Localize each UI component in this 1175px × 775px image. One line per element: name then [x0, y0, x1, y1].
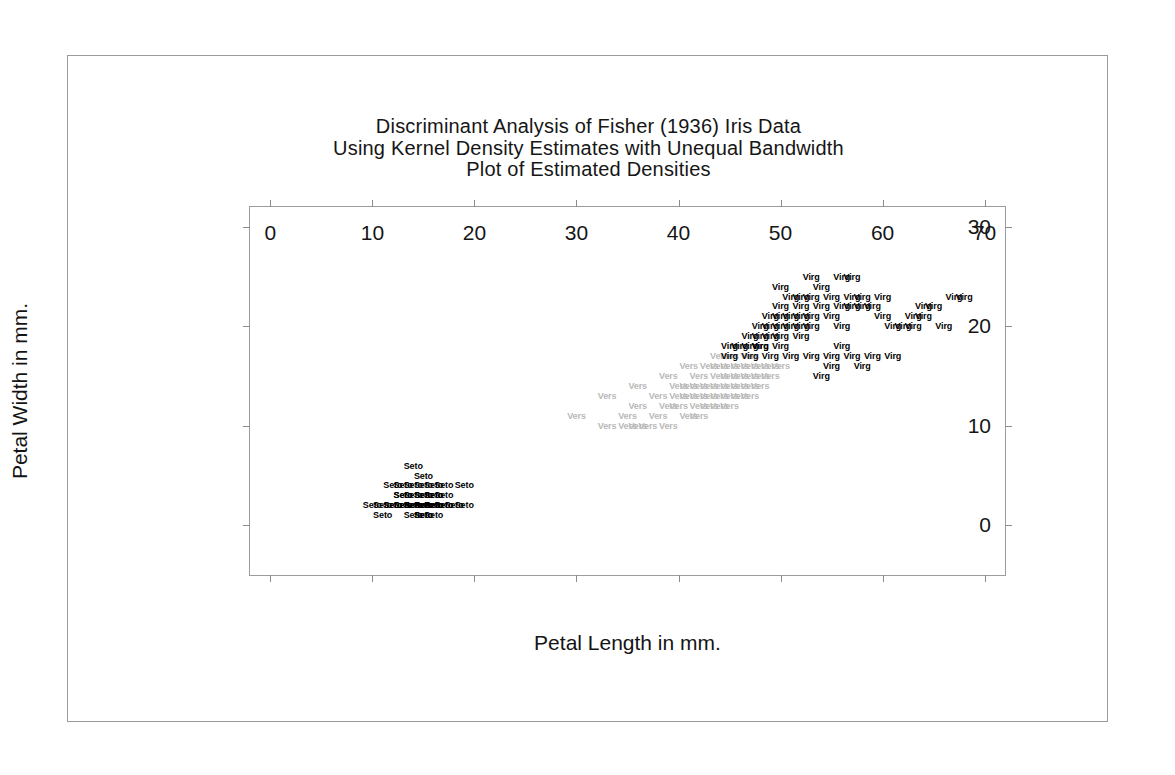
data-point-vers: Vers — [649, 411, 668, 420]
data-point-virg: Virg — [813, 302, 830, 311]
x-tick-mark-top — [270, 200, 271, 207]
x-tick-mark-top — [781, 200, 782, 207]
x-tick-mark — [985, 575, 986, 582]
data-point-virg: Virg — [854, 292, 871, 301]
data-point-virg: Virg — [823, 352, 840, 361]
figure-page: Discriminant Analysis of Fisher (1936) I… — [0, 0, 1175, 775]
data-point-seto: Seto — [455, 481, 474, 490]
x-tick-mark-top — [372, 200, 373, 207]
data-point-vers: Vers — [618, 411, 637, 420]
data-point-virg: Virg — [823, 362, 840, 371]
data-point-virg: Virg — [772, 282, 789, 291]
data-point-virg: Virg — [782, 352, 799, 361]
data-point-vers: Vers — [761, 372, 780, 381]
data-point-vers: Vers — [679, 362, 698, 371]
data-point-virg: Virg — [803, 352, 820, 361]
x-tick-mark-top — [474, 200, 475, 207]
data-point-virg: Virg — [864, 302, 881, 311]
data-point-virg: Virg — [884, 352, 901, 361]
data-point-vers: Vers — [690, 411, 709, 420]
data-point-vers: Vers — [598, 421, 617, 430]
data-point-seto: Seto — [383, 501, 402, 510]
data-point-virg: Virg — [741, 352, 758, 361]
y-tick-mark-right — [1005, 227, 1012, 228]
scatter-data-layer: SetoSetoSetoSetoSetoSetoSetoSetoSetoSeto… — [250, 207, 1005, 575]
y-tick-mark-right — [1005, 525, 1012, 526]
y-tick-mark — [243, 525, 250, 526]
y-tick-mark — [243, 426, 250, 427]
x-tick-mark — [781, 575, 782, 582]
data-point-virg: Virg — [823, 312, 840, 321]
data-point-vers: Vers — [659, 421, 678, 430]
x-axis-title: Petal Length in mm. — [249, 631, 1006, 655]
x-tick-mark-top — [679, 200, 680, 207]
data-point-virg: Virg — [823, 292, 840, 301]
data-point-virg: Virg — [803, 292, 820, 301]
plot-area: SetoSetoSetoSetoSetoSetoSetoSetoSetoSeto… — [249, 206, 1006, 576]
x-tick-label: 20 — [463, 221, 486, 245]
data-point-virg: Virg — [721, 352, 738, 361]
data-point-seto: Seto — [414, 511, 433, 520]
data-point-virg: Virg — [772, 332, 789, 341]
data-point-virg: Virg — [803, 312, 820, 321]
y-tick-label: 10 — [968, 414, 991, 438]
data-point-seto: Seto — [393, 491, 412, 500]
y-tick-mark — [243, 326, 250, 327]
data-point-seto: Seto — [424, 491, 443, 500]
data-point-virg: Virg — [762, 352, 779, 361]
data-point-seto: Seto — [373, 511, 392, 520]
data-point-vers: Vers — [771, 362, 790, 371]
data-point-virg: Virg — [874, 312, 891, 321]
data-point-vers: Vers — [690, 372, 709, 381]
x-tick-mark-top — [576, 200, 577, 207]
data-point-vers: Vers — [741, 362, 760, 371]
x-tick-mark — [372, 575, 373, 582]
y-tick-label: 0 — [979, 513, 991, 537]
x-tick-label: 40 — [667, 221, 690, 245]
data-point-virg: Virg — [915, 312, 932, 321]
data-point-virg: Virg — [813, 372, 830, 381]
data-point-virg: Virg — [803, 322, 820, 331]
x-tick-label: 30 — [565, 221, 588, 245]
data-point-seto: Seto — [414, 501, 433, 510]
data-point-virg: Virg — [874, 292, 891, 301]
data-point-seto: Seto — [455, 501, 474, 510]
data-point-virg: Virg — [915, 302, 932, 311]
data-point-vers: Vers — [628, 401, 647, 410]
y-axis-title: Petal Width in mm. — [8, 206, 32, 576]
y-tick-mark-right — [1005, 426, 1012, 427]
data-point-virg: Virg — [843, 272, 860, 281]
data-point-virg: Virg — [721, 342, 738, 351]
data-point-seto: Seto — [434, 481, 453, 490]
chart-title-line-3: Plot of Estimated Densities — [68, 159, 1109, 181]
chart-title-block: Discriminant Analysis of Fisher (1936) I… — [68, 116, 1109, 181]
data-point-virg: Virg — [864, 352, 881, 361]
data-point-virg: Virg — [792, 332, 809, 341]
figure-outer-border: Discriminant Analysis of Fisher (1936) I… — [67, 55, 1108, 722]
y-tick-mark — [243, 227, 250, 228]
data-point-virg: Virg — [772, 342, 789, 351]
data-point-virg: Virg — [752, 342, 769, 351]
data-point-virg: Virg — [843, 352, 860, 361]
x-tick-label: 50 — [769, 221, 792, 245]
x-tick-mark — [576, 575, 577, 582]
data-point-virg: Virg — [813, 282, 830, 291]
data-point-vers: Vers — [649, 391, 668, 400]
data-point-vers: Vers — [639, 421, 658, 430]
data-point-seto: Seto — [404, 461, 423, 470]
data-point-vers: Vers — [567, 411, 586, 420]
data-point-virg: Virg — [935, 322, 952, 331]
data-point-vers: Vers — [751, 382, 770, 391]
data-point-virg: Virg — [803, 272, 820, 281]
x-tick-mark — [270, 575, 271, 582]
x-tick-mark — [679, 575, 680, 582]
data-point-virg: Virg — [792, 302, 809, 311]
x-tick-mark-top — [883, 200, 884, 207]
data-point-vers: Vers — [628, 382, 647, 391]
data-point-virg: Virg — [833, 342, 850, 351]
x-tick-mark-top — [985, 200, 986, 207]
x-tick-label: 10 — [361, 221, 384, 245]
data-point-virg: Virg — [833, 322, 850, 331]
y-tick-label: 30 — [968, 215, 991, 239]
x-tick-label: 60 — [871, 221, 894, 245]
